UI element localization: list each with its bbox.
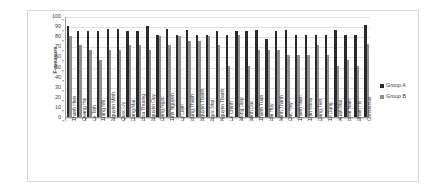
x-axis-category-label: Pham Ho	[357, 101, 362, 122]
y-axis-tick-mark	[62, 111, 64, 112]
x-axis-category-label: Hoai Nam	[347, 99, 352, 121]
y-axis-tick-labels: 0102030405060708090100	[38, 17, 64, 118]
x-axis-category-label: Tinh Nguyen	[170, 93, 175, 121]
y-axis-tick-label: 20	[55, 95, 61, 100]
y-axis-tick-mark	[62, 101, 64, 102]
y-axis-tick-mark	[62, 90, 64, 91]
x-axis-category-label: Tran Khoa	[308, 98, 313, 121]
x-axis-category-label: Quang Ha	[82, 99, 87, 121]
y-axis-tick-mark	[62, 121, 64, 122]
chart-figure: F-measure 0102030405060708090100 Thanh H…	[0, 0, 437, 193]
x-axis-category-label: Le Tinh	[92, 105, 97, 121]
x-axis-category-label: Consensus	[367, 96, 372, 121]
x-axis-category-label: Nguyen Thanh	[220, 89, 225, 121]
x-axis-category-label: Thanh Hien	[72, 96, 77, 121]
y-axis-tick-label: 10	[55, 105, 61, 110]
x-axis-category-label: Minh Duc	[249, 100, 254, 121]
y-axis-tick-mark	[62, 40, 64, 41]
y-axis-tick-label: 60	[55, 55, 61, 60]
chart-plot-frame: F-measure 0102030405060708090100 Thanh H…	[27, 10, 419, 182]
x-axis-category-label: Dang Mai	[131, 100, 136, 121]
legend-item: Group A	[380, 83, 437, 88]
y-axis-tick-mark	[62, 80, 64, 81]
x-axis-category-labels: Thanh HienQuang HaLe TinhTrang NhiNguyen…	[65, 121, 370, 181]
x-axis-category-label: Mong Diep	[239, 97, 244, 121]
legend-item: Group B	[380, 94, 437, 99]
x-axis-category-label: Trang Nhi	[101, 100, 106, 121]
bar-group	[87, 17, 92, 117]
y-axis-tick-label: 80	[55, 34, 61, 39]
y-axis-tick-label: 30	[55, 85, 61, 90]
x-axis-category-label: Ly Liem	[180, 104, 185, 121]
y-axis-tick-mark	[62, 60, 64, 61]
y-axis-tick-label: 70	[55, 45, 61, 50]
legend-label: Group B	[386, 94, 406, 99]
y-axis-tick-mark	[62, 20, 64, 21]
y-axis-tick-label: 50	[55, 65, 61, 70]
x-axis-category-label: Nguyen Duy	[151, 94, 156, 121]
bar-group	[176, 17, 181, 117]
x-axis-category-label: Hung Thanh	[190, 94, 195, 121]
x-axis-category-label: Quoc Uy	[121, 102, 126, 121]
legend-swatch	[380, 84, 384, 88]
y-axis-tick-mark	[62, 70, 64, 71]
x-axis-category-label: Hai Huy	[269, 104, 274, 121]
y-axis-tick-label: 100	[52, 14, 61, 19]
x-axis-category-label: Duc Huy	[288, 102, 293, 121]
x-axis-category-label: Tri Dung	[328, 102, 333, 121]
x-axis-category-label: Hoa Thuong	[141, 94, 146, 121]
x-axis-category-label: Dang Tien	[318, 99, 323, 121]
x-axis-category-label: Nguyen Thanh	[200, 89, 205, 121]
x-axis-category-label: Xuan Mai	[338, 100, 343, 121]
y-axis-tick-label: 0	[58, 115, 61, 120]
legend-label: Group A	[386, 83, 406, 88]
y-axis-tick-mark	[62, 30, 64, 31]
y-axis-tick-label: 90	[55, 24, 61, 29]
x-axis-category-label: Minh Thanh	[279, 95, 284, 121]
legend-swatch	[380, 95, 384, 99]
x-axis-category-label: Dang Ngoc	[160, 96, 165, 121]
y-axis-tick-label: 40	[55, 75, 61, 80]
x-axis-category-label: Thanh Tuan	[259, 95, 264, 121]
y-axis-tick-mark	[62, 50, 64, 51]
x-axis-category-label: Nguyen Minh	[111, 92, 116, 121]
x-axis-category-label: Thanh Nam	[298, 95, 303, 121]
chart-legend: Group AGroup B	[380, 83, 437, 106]
bar-group	[265, 17, 270, 117]
x-axis-category-label: Ngoc Mai	[210, 100, 215, 121]
x-axis-category-label: Le Chinh	[229, 101, 234, 121]
